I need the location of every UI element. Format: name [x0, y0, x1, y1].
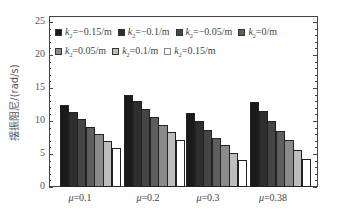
legend-swatch-icon	[112, 48, 119, 55]
y-tick-label: 20	[31, 48, 45, 59]
legend-item: k2=−0.15/m	[55, 26, 112, 39]
legend-swatch-icon	[55, 48, 62, 55]
y-tick-label: 10	[31, 114, 45, 125]
legend-label: k2=−0.1/m	[128, 26, 170, 39]
legend-row-2: k2=0.05/mk2=0.1/mk2=0.15/m	[55, 45, 277, 58]
legend-item: k2=−0.1/m	[118, 26, 170, 39]
legend-item: k2=0.1/m	[112, 45, 158, 58]
legend-item: k2=0.15/m	[164, 45, 215, 58]
legend-swatch-icon	[118, 29, 125, 36]
legend-swatch-icon	[238, 29, 245, 36]
bar-chart: 摆振阻尼/(rad/s) 0510152025 k2=−0.15/mk2=−0.…	[0, 0, 337, 210]
bar	[176, 140, 185, 187]
bar	[112, 148, 121, 187]
y-tick-label: 5	[31, 147, 45, 158]
legend-row-1: k2=−0.15/mk2=−0.1/mk2=−0.05/mk2=0/m	[55, 26, 277, 39]
bar	[238, 160, 247, 187]
y-tick-label: 15	[31, 81, 45, 92]
bar	[302, 159, 311, 187]
legend-label: k2=0/m	[248, 26, 277, 39]
y-tick-label: 0	[31, 180, 45, 191]
legend-item: k2=0/m	[238, 26, 277, 39]
y-tick-mark	[313, 187, 317, 188]
y-tick-mark	[49, 187, 53, 188]
legend-label: k2=0.05/m	[65, 45, 106, 58]
legend-label: k2=−0.15/m	[65, 26, 112, 39]
legend-item: k2=−0.05/m	[176, 26, 233, 39]
x-tick-label: μ=0.2	[118, 192, 178, 203]
y-tick-label: 25	[31, 15, 45, 26]
legend-swatch-icon	[164, 48, 171, 55]
legend-label: k2=0.1/m	[122, 45, 158, 58]
legend-label: k2=0.15/m	[174, 45, 215, 58]
x-tick-label: μ=0.1	[50, 192, 110, 203]
legend-item: k2=0.05/m	[55, 45, 106, 58]
legend-swatch-icon	[176, 29, 183, 36]
x-tick-label: μ=0.3	[178, 192, 238, 203]
y-axis-label: 摆振阻尼/(rad/s)	[6, 58, 21, 148]
legend-label: k2=−0.05/m	[186, 26, 233, 39]
legend: k2=−0.15/mk2=−0.1/mk2=−0.05/mk2=0/m k2=0…	[55, 26, 277, 64]
legend-swatch-icon	[55, 29, 62, 36]
x-tick-label: μ=0.38	[243, 192, 303, 203]
